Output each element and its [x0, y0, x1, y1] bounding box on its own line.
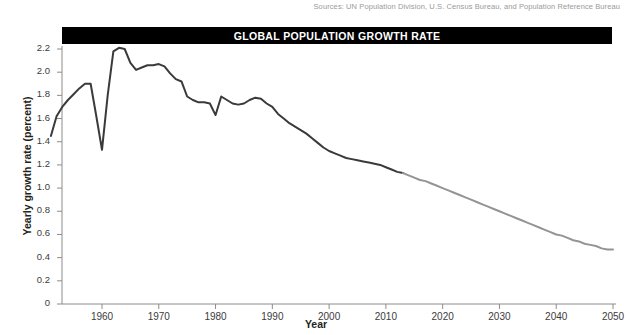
- x-tick-label: 2000: [304, 311, 354, 322]
- sources-note: Sources: UN Population Division, U.S. Ce…: [314, 2, 620, 11]
- y-tick-label: 1.2: [20, 158, 50, 169]
- y-tick-label: 0.4: [20, 251, 50, 262]
- y-tick-label: 2.0: [20, 65, 50, 76]
- chart-figure: Sources: UN Population Division, U.S. Ce…: [0, 0, 632, 335]
- chart-title-bar: GLOBAL POPULATION GROWTH RATE: [62, 27, 612, 44]
- y-tick-label: 1.8: [20, 88, 50, 99]
- y-tick-label: 0: [20, 297, 50, 308]
- y-tick-label: 0.2: [20, 274, 50, 285]
- series-line: [51, 48, 403, 173]
- x-tick-label: 1980: [191, 311, 241, 322]
- y-tick-label: 2.2: [20, 42, 50, 53]
- x-tick-label: 2030: [474, 311, 524, 322]
- y-tick-label: 0.8: [20, 204, 50, 215]
- x-tick-label: 2020: [418, 311, 468, 322]
- y-tick-label: 1.6: [20, 112, 50, 123]
- plot-area: [0, 0, 632, 335]
- y-tick-label: 1.0: [20, 181, 50, 192]
- x-tick-label: 2040: [531, 311, 581, 322]
- axes-group: [57, 46, 616, 309]
- x-tick-label: 1970: [134, 311, 184, 322]
- y-tick-label: 1.4: [20, 135, 50, 146]
- x-tick-label: 1990: [247, 311, 297, 322]
- y-tick-label: 0.6: [20, 227, 50, 238]
- series-group: [51, 48, 613, 250]
- x-tick-label: 1960: [77, 311, 127, 322]
- x-tick-label: 2010: [361, 311, 411, 322]
- chart-canvas: [0, 0, 632, 335]
- x-tick-label: 2050: [588, 311, 632, 322]
- page-title: GLOBAL POPULATION GROWTH RATE: [234, 30, 441, 42]
- series-line: [403, 173, 613, 250]
